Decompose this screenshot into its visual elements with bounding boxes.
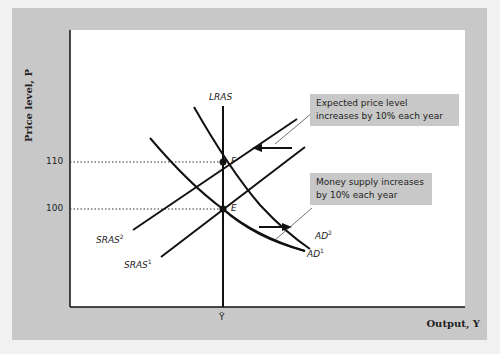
ad2-label-sup: 2 <box>328 229 332 236</box>
leader-money <box>275 208 312 240</box>
ad1-label: AD1 <box>307 247 324 259</box>
sras2-label-text: SRAS <box>96 235 120 245</box>
x-tick-ybar: Ȳ <box>219 312 225 322</box>
sras2-label: SRAS2 <box>96 233 124 245</box>
note-money-supply: Money supply increases by 10% each year <box>310 173 432 205</box>
sras2-line <box>133 119 297 230</box>
ad1-label-sup: 1 <box>320 247 324 254</box>
y-tick-100: 100 <box>46 203 63 213</box>
leader-expected <box>275 113 312 144</box>
point-e-marker <box>220 206 227 213</box>
point-f-marker <box>220 159 227 166</box>
x-axis-label: Output, Y <box>426 318 480 329</box>
point-e-label: E <box>231 203 237 213</box>
y-tick-110: 110 <box>46 156 63 166</box>
sras1-label-text: SRAS <box>124 260 148 270</box>
note-expected-line2: increases by 10% each year <box>316 110 453 123</box>
sras1-label: SRAS1 <box>124 258 152 270</box>
note-expected-line1: Expected price level <box>316 97 453 110</box>
ad1-curve-tail <box>223 209 305 251</box>
ad1-label-text: AD <box>307 249 320 259</box>
ad2-label: AD2 <box>315 229 332 241</box>
note-money-line1: Money supply increases <box>316 176 426 189</box>
y-axis-label: Price level, P <box>23 56 34 156</box>
sras2-label-sup: 2 <box>120 233 124 240</box>
note-money-line2: by 10% each year <box>316 189 426 202</box>
lras-label: LRAS <box>209 92 232 102</box>
point-f-label: F <box>231 156 236 166</box>
note-expected-price: Expected price level increases by 10% ea… <box>310 94 459 126</box>
sras1-label-sup: 1 <box>148 258 152 265</box>
ad2-label-text: AD <box>315 231 328 241</box>
